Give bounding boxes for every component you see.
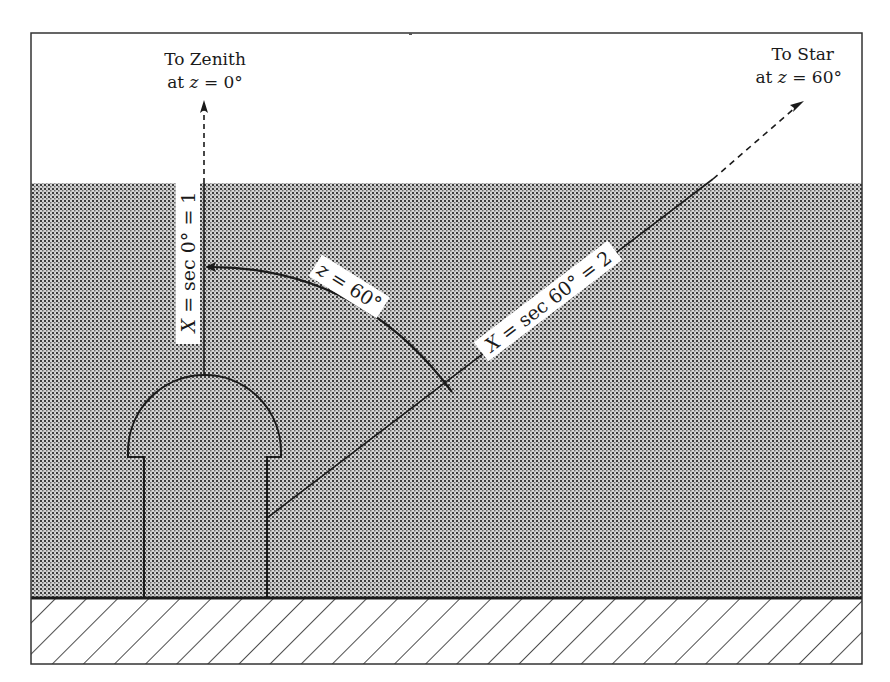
zenith-label-line2: at z = 0°: [167, 72, 243, 92]
svg-text:X = sec 0° = 1: X = sec 0° = 1: [177, 192, 199, 335]
zenith-airmass-var: X: [177, 317, 199, 334]
atmosphere-layer: [31, 183, 862, 598]
zenith-arrow-icon: [200, 100, 208, 113]
star-label-line2: at z = 60°: [755, 67, 842, 87]
ground-hatch: [31, 598, 862, 664]
zenith-airmass-label: X = sec 0° = 1: [176, 180, 200, 344]
star-label-line1: To Star: [772, 44, 835, 64]
top-edge-mark: [409, 33, 412, 35]
star-dashed-line: [713, 107, 796, 179]
zenith-airmass-text: = sec 0° = 1: [177, 192, 199, 319]
airmass-diagram: X = sec 0° = 1 z = 60° X = sec 60° = 2 T…: [0, 0, 890, 682]
zenith-label-line1: To Zenith: [164, 49, 246, 69]
